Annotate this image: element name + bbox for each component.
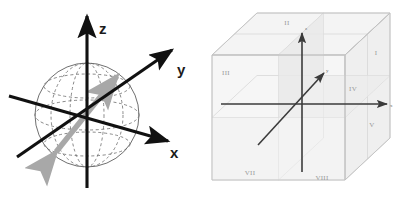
figure-root: z y x	[0, 0, 403, 204]
x-axis-label: x	[170, 144, 179, 161]
octant-label-v: V	[369, 121, 374, 129]
y-axis-label: y	[177, 61, 186, 78]
octant-label-i: I	[375, 49, 378, 57]
sphere-panel: z y x	[0, 0, 201, 204]
octant-label-iv: IV	[349, 85, 357, 93]
cube-diagram-svg: z x y I II III IV V VII VIII	[201, 0, 403, 204]
cube-lower-front-shade	[212, 118, 345, 181]
octant-label-ii: II	[284, 19, 290, 27]
octant-label-vii: VII	[245, 169, 256, 177]
cube-panel: z x y I II III IV V VII VIII	[201, 0, 403, 204]
z-axis-label: z	[99, 20, 107, 37]
cube-x-axis-label: x	[390, 103, 393, 108]
octant-label-iii: III	[222, 69, 230, 77]
sphere-diagram-svg: z y x	[0, 0, 201, 204]
octant-label-viii: VIII	[315, 174, 329, 182]
